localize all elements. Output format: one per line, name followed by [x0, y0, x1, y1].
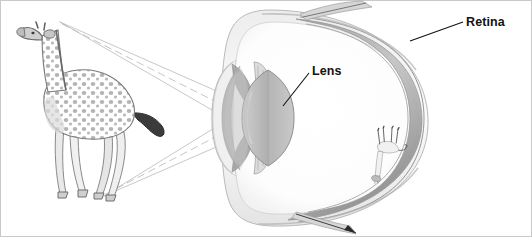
giraffe-ear — [44, 30, 55, 38]
giraffe-eye — [31, 32, 34, 35]
eye-diagram-figure: Retina Lens — [0, 0, 532, 237]
label-lens: Lens — [312, 65, 342, 78]
label-retina: Retina — [466, 16, 505, 29]
diagram-canvas — [0, 0, 532, 237]
giraffe-muzzle — [17, 28, 25, 37]
